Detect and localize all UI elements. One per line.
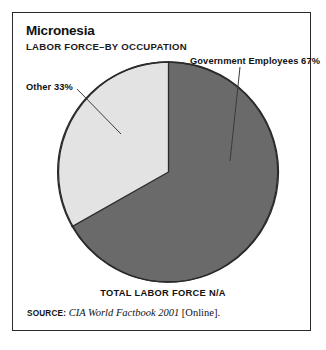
source-line: Source: CIA World Factbook 2001 [Online]… [27,308,220,319]
chart-page: Micronesia LABOR FORCE–BY OCCUPATION Oth… [0,0,326,350]
total-labor-force-caption: TOTAL LABOR FORCE N/A [0,289,326,298]
page-title: Micronesia [26,24,95,38]
chart-subtitle: LABOR FORCE–BY OCCUPATION [26,42,187,52]
source-title: CIA World Factbook 2001 [69,307,180,318]
source-suffix: [Online]. [179,307,220,318]
pie-label-government-employees: Government Employees 67% [190,57,320,66]
source-label: Source: [27,309,69,318]
pie-label-other: Other 33% [26,83,73,92]
